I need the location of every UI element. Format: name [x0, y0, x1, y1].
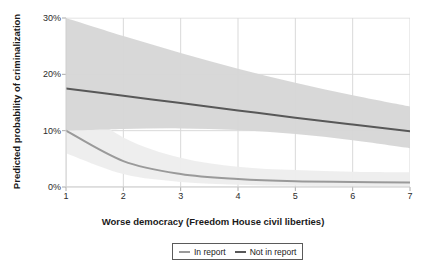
legend-swatch-line-icon: [179, 251, 190, 253]
x-axis-label: Worse democracy (Freedom House civil lib…: [0, 216, 426, 227]
x-tick-label: 6: [341, 191, 365, 201]
legend-label: In report: [194, 247, 226, 257]
chart-legend: In report Not in report: [172, 243, 303, 260]
x-tick-label: 2: [111, 191, 135, 201]
x-tick-label: 3: [169, 191, 193, 201]
legend-swatch-line-icon: [235, 251, 246, 253]
legend-item-in-report: In report: [179, 247, 226, 257]
chart-figure: Predicted probability of criminalization…: [0, 0, 426, 266]
x-tick-label: 5: [283, 191, 307, 201]
legend-item-not-in-report: Not in report: [235, 247, 297, 257]
legend-label: Not in report: [250, 247, 297, 257]
x-tick-label: 4: [226, 191, 250, 201]
x-tick-label: 7: [398, 191, 422, 201]
x-tick-label: 1: [54, 191, 78, 201]
